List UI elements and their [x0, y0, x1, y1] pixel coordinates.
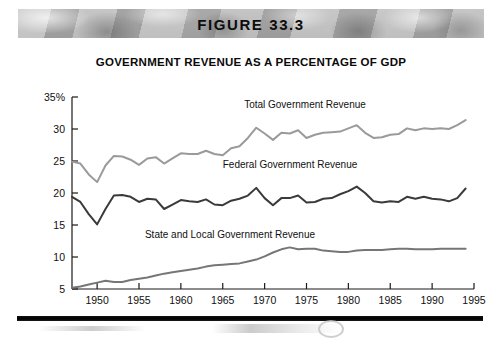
x-axis-tick-label: 1995: [462, 294, 486, 306]
series-label: Federal Government Revenue: [223, 159, 358, 170]
series-label-group: Total Government RevenueFederal Governme…: [145, 99, 366, 240]
scan-artifact-left: [38, 326, 146, 331]
x-axis-tick-label: 1950: [85, 294, 109, 306]
y-axis-tick-label: 5: [59, 283, 65, 295]
x-axis-tick-label: 1960: [169, 294, 193, 306]
x-axis-tick-label: 1970: [253, 294, 277, 306]
series-label: Total Government Revenue: [244, 99, 366, 110]
y-axis-tick-label: 15: [53, 219, 65, 231]
bottom-rule: [17, 316, 483, 321]
y-axis-tick-label: 20: [53, 187, 65, 199]
y-axis-tick-label: 30: [53, 123, 65, 135]
scan-artifact-ring: [318, 320, 344, 338]
x-axis-tick-label: 1985: [379, 294, 403, 306]
data-series-group: [72, 120, 466, 288]
series-line: [72, 247, 466, 287]
x-axis-tick-label: 1955: [127, 294, 151, 306]
line-chart: 35%30252015105 1950195519601965197019751…: [0, 0, 502, 340]
series-line: [72, 187, 466, 225]
y-axis-tick-label: 35%: [44, 91, 65, 103]
y-axis-tick-label: 10: [53, 251, 65, 263]
y-axis: 35%30252015105: [44, 91, 78, 295]
y-axis-tick-label: 25: [53, 155, 65, 167]
chart-canvas: 35%30252015105 1950195519601965197019751…: [0, 0, 502, 340]
series-label: State and Local Government Revenue: [145, 229, 316, 240]
x-axis-tick-label: 1975: [295, 294, 319, 306]
x-axis-tick-label: 1965: [211, 294, 235, 306]
x-axis-tick-label: 1990: [420, 294, 444, 306]
series-line: [72, 120, 466, 182]
x-axis: 1950195519601965197019751980198519901995: [72, 283, 486, 306]
x-axis-tick-label: 1980: [337, 294, 361, 306]
